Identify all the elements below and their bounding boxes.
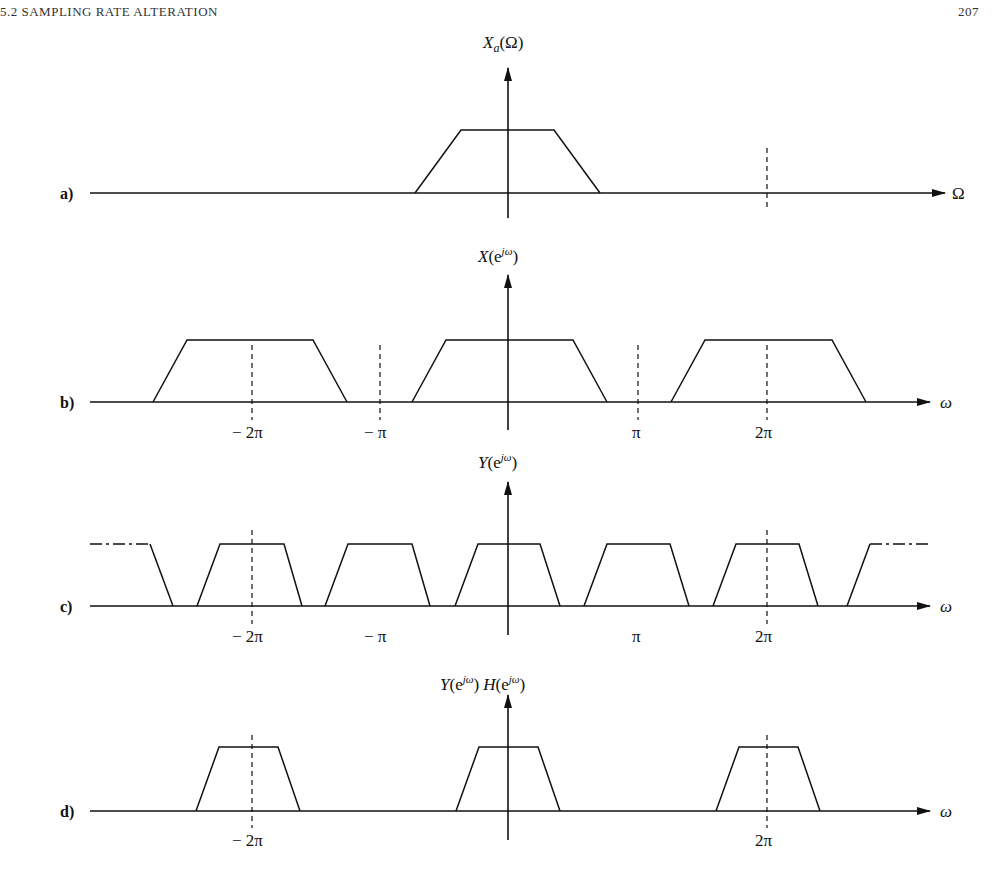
x-axis-label-b: ω [940, 393, 952, 412]
panel-label-d: d) [60, 803, 74, 821]
tick-label-neg-2pi: − 2π [232, 627, 263, 646]
spectrum-edge-c-left [150, 544, 173, 606]
spectrum-replica-c [197, 544, 302, 606]
y-axis-label-c: Y(ejω) [478, 451, 517, 472]
tick-label-neg-2pi: − 2π [232, 831, 263, 850]
filtered-replica-d-right [716, 747, 820, 811]
tick-label-2pi: 2π [755, 423, 773, 442]
spectrum-replica-c [584, 544, 689, 606]
panel-b: b) − 2π − π π 2π ω X(ejω) [60, 245, 952, 442]
tick-label-2pi: 2π [755, 627, 773, 646]
y-axis-label-a: Xa(Ω) [482, 33, 523, 55]
panel-c: c) − 2π − π π 2π ω Y(ejω) [60, 451, 952, 646]
y-axis-label-b: X(ejω) [477, 245, 518, 266]
tick-label-pi: π [632, 627, 641, 646]
x-axis-label-d: ω [940, 802, 952, 821]
tick-label-pi: π [632, 423, 641, 442]
panel-label-a: a) [60, 185, 73, 203]
figure-sampling-rate-alteration: a) Ω Xa(Ω) b) − 2π − π π 2π ω X(ejω) c) [0, 0, 995, 888]
panel-label-b: b) [60, 394, 74, 412]
filtered-replica-d-left [196, 747, 300, 811]
spectrum-replica-b-center [412, 340, 607, 402]
tick-label-neg-pi: − π [364, 627, 387, 646]
spectrum-replica-c [713, 544, 818, 606]
spectrum-edge-c-right [847, 544, 870, 606]
y-axis-label-d: Y(ejω)H(ejω) [440, 673, 525, 694]
panel-d: d) − 2π 2π ω Y(ejω)H(ejω) [60, 673, 952, 850]
panel-a: a) Ω Xa(Ω) [60, 33, 965, 218]
tick-label-2pi: 2π [755, 831, 773, 850]
tick-label-neg-2pi: − 2π [232, 423, 263, 442]
x-axis-label-c: ω [940, 597, 952, 616]
x-axis-label-a: Ω [952, 184, 965, 203]
spectrum-replica-b-left [153, 340, 347, 402]
spectrum-replica-c [325, 544, 430, 606]
tick-label-neg-pi: − π [364, 423, 387, 442]
spectrum-replica-b-right [671, 340, 866, 402]
panel-label-c: c) [60, 598, 72, 616]
